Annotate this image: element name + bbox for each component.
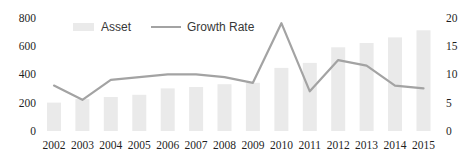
x-axis-label-2009: 2009 (241, 139, 264, 151)
x-axis-label-2002: 2002 (43, 139, 66, 151)
x-axis-label-2011: 2011 (299, 139, 322, 151)
asset-bar-2010 (274, 68, 288, 131)
asset-bar-2014 (388, 37, 402, 131)
asset-legend-swatch-icon (73, 23, 94, 31)
asset-bar-2009 (246, 83, 260, 131)
asset-bar-2008 (218, 84, 232, 131)
y-axis-right-tick-5: 5 (446, 97, 452, 109)
x-axis-label-2010: 2010 (270, 139, 293, 151)
asset-bar-2013 (360, 43, 374, 131)
y-axis-left-tick-0: 0 (30, 125, 36, 137)
x-axis-label-2006: 2006 (156, 139, 179, 151)
asset-bar-2002 (47, 103, 61, 131)
x-axis-label-2008: 2008 (213, 139, 236, 151)
y-axis-left-tick-800: 800 (19, 12, 37, 24)
x-axis-label-2013: 2013 (355, 139, 378, 151)
y-axis-right-tick-10: 10 (446, 68, 458, 80)
asset-bar-2003 (75, 99, 89, 131)
asset-bar-2007 (189, 87, 203, 131)
asset-bar-2005 (132, 95, 146, 131)
asset-bar-2006 (161, 88, 175, 131)
y-axis-left-tick-400: 400 (19, 68, 37, 80)
x-axis-label-2005: 2005 (128, 139, 151, 151)
chart-container: 0200400600800051015202002200320042005200… (0, 0, 472, 163)
growth-rate-legend-label: Growth Rate (187, 20, 254, 34)
legend: Asset Growth Rate (73, 20, 254, 34)
y-axis-left-tick-600: 600 (19, 40, 37, 52)
asset-legend-label: Asset (101, 20, 131, 34)
y-axis-right-tick-0: 0 (446, 125, 452, 137)
asset-bar-2015 (417, 30, 431, 131)
asset-bar-2011 (303, 63, 317, 131)
x-axis-label-2003: 2003 (71, 139, 94, 151)
growth-rate-legend-swatch-icon (151, 26, 181, 28)
x-axis-label-2012: 2012 (327, 139, 350, 151)
asset-bar-2004 (104, 97, 118, 131)
y-axis-right-tick-20: 20 (446, 12, 458, 24)
x-axis-label-2015: 2015 (412, 139, 435, 151)
x-axis-label-2014: 2014 (384, 139, 407, 151)
y-axis-left-tick-200: 200 (19, 97, 37, 109)
x-axis-label-2007: 2007 (185, 139, 208, 151)
x-axis-label-2004: 2004 (99, 139, 122, 151)
y-axis-right-tick-15: 15 (446, 40, 458, 52)
